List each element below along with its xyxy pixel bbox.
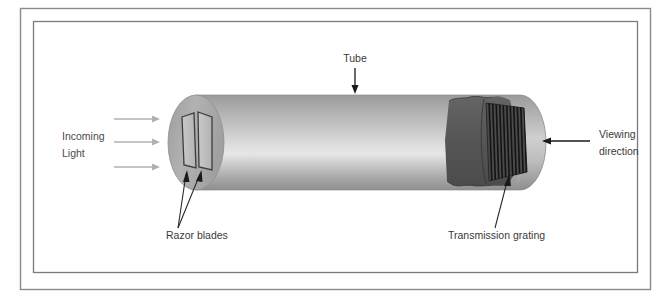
light-ray-3-head: [152, 164, 160, 171]
tube-spectrograph-diagram: Tube Incoming Light Razor blades Transmi…: [0, 0, 666, 301]
transmission-grating: [486, 98, 527, 186]
incoming-light-label-line2: Light: [62, 147, 85, 159]
tube-label: Tube: [343, 52, 367, 64]
light-ray-2-head: [152, 139, 160, 146]
tube-callout: [352, 68, 359, 94]
razor-blades-label: Razor blades: [166, 229, 228, 241]
razor-blade-left: [182, 113, 196, 168]
incoming-light-arrows: [114, 116, 160, 171]
razor-blade-right: [198, 112, 212, 170]
viewing-direction-label-line1: Viewing: [599, 128, 636, 140]
tube-left-endcap: [168, 95, 224, 190]
incoming-light-label-line1: Incoming: [62, 130, 105, 142]
viewing-direction-callout: [542, 138, 590, 145]
tube-arrow-head: [352, 85, 359, 94]
tube-assembly: [168, 95, 546, 190]
transmission-grating-label: Transmission grating: [448, 229, 545, 241]
viewing-direction-label-line2: direction: [599, 145, 639, 157]
light-ray-1-head: [152, 116, 160, 123]
figure-container: Tube Incoming Light Razor blades Transmi…: [0, 0, 666, 301]
